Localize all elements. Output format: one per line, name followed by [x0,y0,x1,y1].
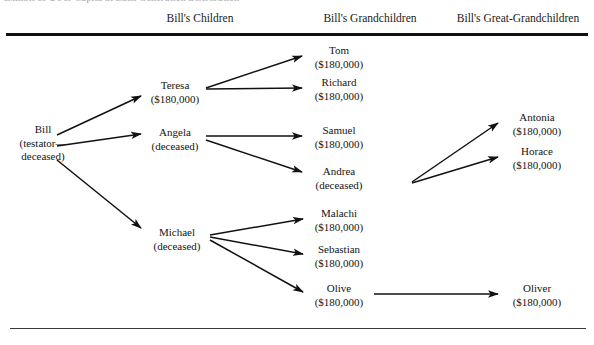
node-andrea: Andrea (deceased) [304,165,374,192]
node-teresa-amount: ($180,000) [143,93,207,107]
node-olive: Olive ($180,000) [304,282,374,309]
node-richard: Richard ($180,000) [304,76,374,103]
edge-andrea-horace [412,157,498,183]
node-olive-name: Olive [304,282,374,296]
node-antonia-amount: ($180,000) [500,125,574,139]
node-bill-sub2: deceased) [5,150,81,164]
edge-teresa-richard [206,88,302,89]
node-oliver: Oliver ($180,000) [500,282,574,309]
node-richard-amount: ($180,000) [304,90,374,104]
node-samuel-amount: ($180,000) [304,138,374,152]
node-michael-name: Michael [143,226,211,240]
edge-michael-sebastian [210,237,303,254]
node-bill: Bill (testator— deceased) [5,123,81,164]
node-michael-status: (deceased) [143,240,211,254]
node-tom-name: Tom [304,44,374,58]
node-sebastian-name: Sebastian [300,243,378,257]
figure-canvas: Exhibit 19-2 Per Capita at Each Generati… [0,0,594,345]
node-sebastian-amount: ($180,000) [300,257,378,271]
node-angela-name: Angela [143,126,207,140]
node-andrea-status: (deceased) [304,179,374,193]
edge-michael-malachi [210,219,303,235]
edge-andrea-antonia [412,123,498,182]
node-teresa: Teresa ($180,000) [143,79,207,106]
edge-bill-michael [57,160,141,228]
node-andrea-name: Andrea [304,165,374,179]
node-horace-amount: ($180,000) [500,159,574,173]
node-angela-status: (deceased) [143,140,207,154]
node-malachi: Malachi ($180,000) [304,207,374,234]
node-teresa-name: Teresa [143,79,207,93]
node-horace-name: Horace [500,145,574,159]
node-horace: Horace ($180,000) [500,145,574,172]
node-malachi-amount: ($180,000) [304,221,374,235]
node-samuel: Samuel ($180,000) [304,124,374,151]
edge-angela-andrea [206,140,302,172]
node-michael: Michael (deceased) [143,226,211,253]
node-richard-name: Richard [304,76,374,90]
node-antonia: Antonia ($180,000) [500,111,574,138]
node-antonia-name: Antonia [500,111,574,125]
node-bill-sub1: (testator— [5,137,81,151]
node-oliver-name: Oliver [500,282,574,296]
node-samuel-name: Samuel [304,124,374,138]
node-malachi-name: Malachi [304,207,374,221]
node-tom-amount: ($180,000) [304,58,374,72]
node-oliver-amount: ($180,000) [500,296,574,310]
node-bill-name: Bill [5,123,81,137]
edge-teresa-tom [206,56,302,88]
node-angela: Angela (deceased) [143,126,207,153]
node-olive-amount: ($180,000) [304,296,374,310]
node-sebastian: Sebastian ($180,000) [300,243,378,270]
edge-michael-olive [210,240,303,292]
node-tom: Tom ($180,000) [304,44,374,71]
